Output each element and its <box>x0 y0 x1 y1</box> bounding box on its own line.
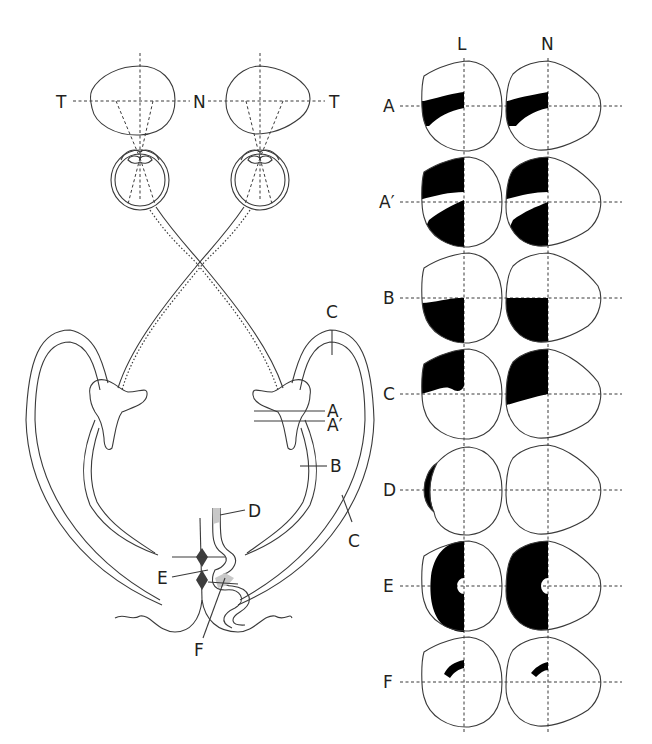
lesion-label-B: B <box>330 456 342 476</box>
field-row-E: E <box>383 536 622 636</box>
svg-text:E: E <box>383 576 394 596</box>
svg-text:F: F <box>383 672 393 692</box>
field-row-F: F <box>383 637 622 727</box>
visual-fields-top: T N T <box>55 53 340 200</box>
lesion-label-C-top: C <box>326 302 338 322</box>
eyeballs <box>111 150 289 210</box>
svg-text:C: C <box>383 384 395 404</box>
occipital-cortex <box>115 508 292 632</box>
column-header-L: L <box>457 34 467 54</box>
label-nasal: N <box>193 92 206 112</box>
lesion-label-C-side: C <box>348 531 360 551</box>
visual-pathway-diagram: T N T <box>0 0 652 744</box>
lgn-and-radiations-left <box>26 330 162 605</box>
field-row-D: D <box>383 445 622 535</box>
svg-text:D: D <box>383 480 396 500</box>
column-header-N: N <box>541 34 554 54</box>
field-row-A: A <box>383 61 622 151</box>
svg-text:A′: A′ <box>379 192 395 212</box>
svg-text:B: B <box>383 288 395 308</box>
label-temporal-left: T <box>55 92 67 112</box>
field-row-B: B <box>383 253 622 348</box>
field-map-grid: L N A A′ <box>379 34 622 732</box>
nucleus-diamond-lower <box>196 570 208 590</box>
lesion-label-A-prime: A′ <box>327 415 343 435</box>
field-row-C: C <box>383 344 622 439</box>
field-row-A-prime: A′ <box>379 152 622 252</box>
lesion-markers: A A′ B C C D E F <box>157 302 360 660</box>
svg-text:A: A <box>383 96 395 116</box>
optic-nerves-chiasm <box>118 207 283 390</box>
lesion-label-E: E <box>157 568 168 588</box>
lesion-label-F: F <box>194 640 204 660</box>
shade-D <box>213 508 220 524</box>
lgn-and-radiations-right <box>238 330 374 605</box>
label-temporal-right: T <box>328 92 340 112</box>
lesion-label-D: D <box>248 501 261 521</box>
